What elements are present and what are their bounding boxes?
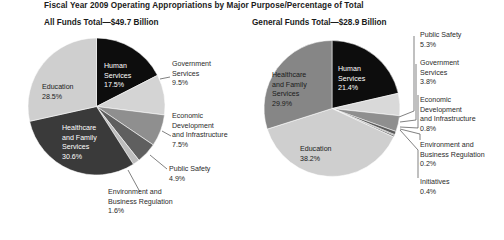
callout-environment-and-business-regulation: Environment and Business Regulation 0.2% bbox=[420, 141, 485, 170]
callout-value: 0.4% bbox=[420, 188, 450, 198]
pie-label-value: 29.9% bbox=[272, 100, 293, 108]
callout-initiatives: Initiatives 0.4% bbox=[420, 178, 450, 197]
callout-line: Government bbox=[420, 59, 459, 69]
callout-line: Environment and bbox=[420, 141, 485, 151]
callout-public-safety: Public Safety 5.3% bbox=[420, 31, 461, 50]
callout-government-services: Government Services 3.8% bbox=[420, 59, 459, 88]
callout-line: Economic bbox=[420, 96, 476, 106]
callout-line: Services bbox=[420, 69, 459, 79]
pie-label-value: 38.2% bbox=[300, 155, 321, 163]
pie-label-line: and Family bbox=[272, 81, 307, 89]
callout-line: Development bbox=[420, 106, 476, 116]
leader-economic-development bbox=[400, 95, 418, 128]
leader-environment-business-regulation bbox=[400, 129, 420, 140]
right-pie-slices bbox=[264, 41, 400, 177]
pie-label-line: Education bbox=[300, 145, 332, 153]
right-pie-leader-lines bbox=[399, 36, 420, 178]
callout-economic-development-and-infrastructure: Economic Development and Infrastructure … bbox=[420, 96, 476, 134]
callout-line: and Infrastructure bbox=[420, 115, 476, 125]
callout-value: 0.8% bbox=[420, 125, 476, 135]
callout-line: Initiatives bbox=[420, 178, 450, 188]
pie-label-line: Human bbox=[338, 65, 361, 73]
callout-value: 0.2% bbox=[420, 160, 485, 170]
pie-label-line: Services bbox=[338, 75, 366, 83]
callout-line: Public Safety bbox=[420, 31, 461, 41]
callout-value: 3.8% bbox=[420, 78, 459, 88]
pie-label-line: Services bbox=[272, 90, 300, 98]
leader-public-safety bbox=[399, 36, 414, 117]
pie-label-value: 21.4% bbox=[338, 84, 359, 92]
leader-initiatives bbox=[400, 130, 418, 178]
callout-line: Business Regulation bbox=[420, 151, 485, 161]
pie-label-line: Healthcare bbox=[272, 71, 306, 79]
callout-value: 5.3% bbox=[420, 41, 461, 51]
